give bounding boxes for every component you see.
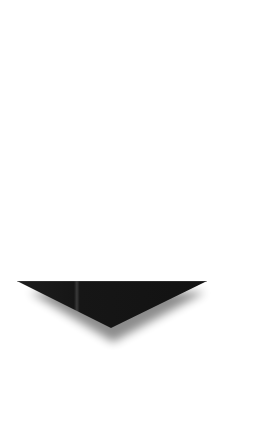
canvas xyxy=(0,0,261,430)
down-triangle-icon xyxy=(0,0,261,430)
